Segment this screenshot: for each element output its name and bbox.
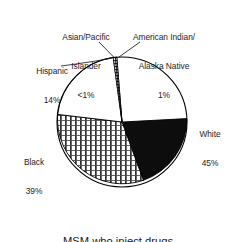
pie-label-white-line1: White (186, 130, 234, 140)
pie-chart-figure: Asian/Pacific Islander <1% American Indi… (0, 0, 236, 242)
pie-label-hispanic-value: 14% (20, 96, 84, 106)
chart-caption: MSM who inject drugs No. = 24,012 (0, 205, 236, 242)
pie-label-black-value: 39% (6, 187, 62, 197)
pie-label-api-line1: Asian/Pacific (46, 33, 126, 43)
pie-label-hispanic: Hispanic 14% (20, 48, 84, 125)
pie-label-aian-line1: American Indian/ (122, 33, 206, 43)
pie-label-white-value: 45% (186, 159, 234, 169)
chart-caption-title: MSM who inject drugs (0, 234, 236, 242)
pie-label-white: White 45% (186, 111, 234, 188)
pie-label-american-indian-alaska-native: American Indian/ Alaska Native 1% (122, 14, 206, 120)
pie-label-hispanic-line1: Hispanic (20, 67, 84, 77)
pie-label-aian-value: 1% (122, 91, 206, 101)
pie-label-black-line1: Black (6, 158, 62, 168)
pie-label-aian-line2: Alaska Native (122, 62, 206, 72)
